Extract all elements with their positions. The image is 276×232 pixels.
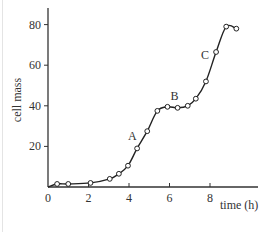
data-point-marker (55, 182, 60, 187)
x-tick-label: 2 (86, 191, 92, 205)
data-point-marker (88, 181, 93, 186)
axes: 2040608002468 (29, 8, 258, 205)
x-tick-label: 4 (126, 191, 132, 205)
data-point-marker (107, 176, 112, 181)
x-tick-label: 6 (167, 191, 173, 205)
x-tick-label: 8 (207, 191, 213, 205)
data-point-marker (66, 182, 71, 187)
phase-label-c: C (201, 48, 209, 62)
data-point-marker (145, 129, 150, 134)
phase-annotations: ABC (128, 48, 209, 143)
x-axis-label: time (h) (220, 198, 258, 212)
phase-label-a: A (128, 129, 137, 143)
cell-mass-growth-chart: 2040608002468 time (h) cell mass ABC (0, 0, 276, 232)
data-point-marker (185, 103, 190, 108)
data-point-marker (224, 24, 229, 29)
y-tick-label: 80 (29, 18, 41, 32)
x-tick-label: 0 (45, 191, 51, 205)
data-point-marker (193, 96, 198, 101)
data-markers (55, 24, 239, 186)
data-point-marker (234, 26, 239, 31)
y-tick-label: 60 (29, 58, 41, 72)
y-tick-label: 20 (29, 139, 41, 153)
y-tick-label: 40 (29, 99, 41, 113)
data-point-marker (126, 163, 131, 168)
data-point-marker (165, 104, 170, 109)
y-axis-label: cell mass (10, 78, 24, 123)
data-point-marker (204, 79, 209, 84)
data-point-marker (155, 108, 160, 113)
data-point-marker (116, 171, 121, 176)
data-point-marker (175, 105, 180, 110)
data-point-marker (214, 50, 219, 55)
phase-label-b: B (171, 89, 179, 103)
data-point-marker (135, 146, 140, 151)
